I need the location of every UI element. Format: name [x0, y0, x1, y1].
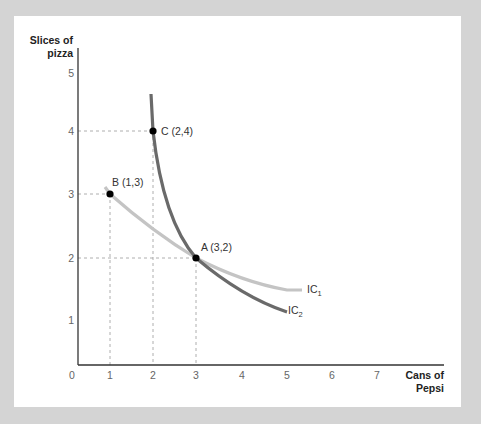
svg-text:5: 5 [284, 369, 290, 381]
svg-text:4: 4 [239, 369, 245, 381]
point-a-label: A (3,2) [201, 241, 232, 253]
svg-text:6: 6 [329, 369, 335, 381]
ic1-curve [105, 187, 302, 290]
svg-text:2: 2 [150, 369, 156, 381]
svg-text:4: 4 [68, 125, 74, 137]
svg-text:1: 1 [68, 314, 74, 326]
x-tick-labels: 0 1 2 3 4 5 6 7 [69, 369, 380, 381]
ic2-label: IC2 [288, 304, 303, 319]
svg-text:7: 7 [374, 369, 380, 381]
y-axis-title-line1: Slices of [30, 34, 74, 46]
svg-text:0: 0 [69, 369, 75, 381]
point-a [192, 254, 199, 261]
point-b-label: B (1,3) [112, 176, 144, 188]
indifference-curve-chart: C (2,4) B (1,3) A (3,2) IC1 IC2 1 2 3 4 … [0, 0, 481, 424]
y-tick-labels: 1 2 3 4 5 [68, 67, 74, 326]
point-c-label: C (2,4) [161, 125, 193, 137]
x-axis-title-line1: Cans of [405, 369, 444, 381]
svg-text:3: 3 [68, 188, 74, 200]
svg-text:3: 3 [193, 369, 199, 381]
svg-text:1: 1 [107, 369, 113, 381]
point-c [149, 127, 156, 134]
y-axis-title-line2: pizza [47, 47, 73, 59]
svg-text:5: 5 [68, 67, 74, 79]
axes [78, 48, 444, 365]
point-b [106, 190, 113, 197]
x-axis-title-line2: Pepsi [416, 382, 444, 394]
svg-text:2: 2 [68, 252, 74, 264]
ic1-label: IC1 [307, 283, 322, 298]
